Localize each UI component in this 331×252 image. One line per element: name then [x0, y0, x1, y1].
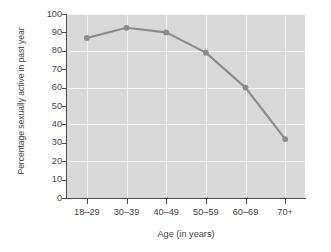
- y-tick-label: 100: [26, 10, 62, 19]
- y-tick-label: 0: [26, 194, 62, 203]
- y-tick-label: 70: [26, 65, 62, 74]
- x-tick-mark: [285, 199, 286, 204]
- y-tick-mark: [62, 106, 67, 107]
- series-line: [87, 28, 285, 139]
- data-point-marker: [282, 136, 288, 142]
- x-tick-mark: [166, 199, 167, 204]
- y-tick-mark: [62, 69, 67, 70]
- y-tick-mark: [62, 161, 67, 162]
- chart-figure: Percentage sexually active in past year …: [0, 0, 331, 252]
- y-tick-mark: [62, 14, 67, 15]
- y-tick-label: 40: [26, 120, 62, 129]
- line-series: [67, 14, 305, 198]
- x-tick-mark: [246, 199, 247, 204]
- y-tick-mark: [62, 180, 67, 181]
- y-tick-label: 60: [26, 83, 62, 92]
- x-tick-mark: [87, 199, 88, 204]
- x-tick-label: 70+: [253, 207, 317, 218]
- data-point-marker: [243, 85, 249, 91]
- y-tick-mark: [62, 32, 67, 33]
- y-tick-label: 50: [26, 102, 62, 111]
- x-axis-title: Age (in years): [67, 229, 305, 239]
- y-tick-mark: [62, 124, 67, 125]
- y-tick-mark: [62, 51, 67, 52]
- plot-area: [67, 14, 305, 198]
- y-tick-label: 90: [26, 28, 62, 37]
- x-tick-mark: [206, 199, 207, 204]
- data-point-marker: [124, 25, 130, 31]
- y-tick-mark: [62, 143, 67, 144]
- y-tick-label: 20: [26, 157, 62, 166]
- y-tick-label: 80: [26, 46, 62, 55]
- x-tick-mark: [127, 199, 128, 204]
- y-tick-mark: [62, 88, 67, 89]
- data-point-marker: [163, 30, 169, 36]
- data-point-marker: [84, 35, 90, 41]
- y-tick-label: 30: [26, 138, 62, 147]
- x-axis-spine: [66, 198, 306, 199]
- y-tick-label: 10: [26, 175, 62, 184]
- data-point-marker: [203, 50, 209, 56]
- y-tick-mark: [62, 198, 67, 199]
